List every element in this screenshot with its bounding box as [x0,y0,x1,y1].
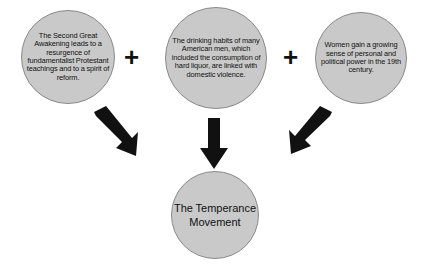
result-node-temperance-movement: The Temperance Movement [171,171,259,259]
cause-node-drinking-habits: The drinking habits of many American men… [165,7,267,109]
cause-node-text: The Second Great Awakening leads to a re… [24,32,112,82]
arrow-down-left-icon [286,106,334,156]
arrow-down-right-icon [92,106,140,158]
cause-node-text: The drinking habits of many American men… [168,37,264,79]
cause-node-text: Women gain a growing sense of personal a… [318,41,404,74]
plus-operator-icon: + [124,44,139,70]
diagram-canvas: The Second Great Awakening leads to a re… [0,0,426,272]
cause-node-second-great-awakening: The Second Great Awakening leads to a re… [21,10,115,104]
cause-node-womens-power: Women gain a growing sense of personal a… [315,12,407,104]
result-node-text: The Temperance Movement [174,201,257,229]
plus-operator-icon: + [283,44,298,70]
arrow-down-icon [199,118,229,170]
